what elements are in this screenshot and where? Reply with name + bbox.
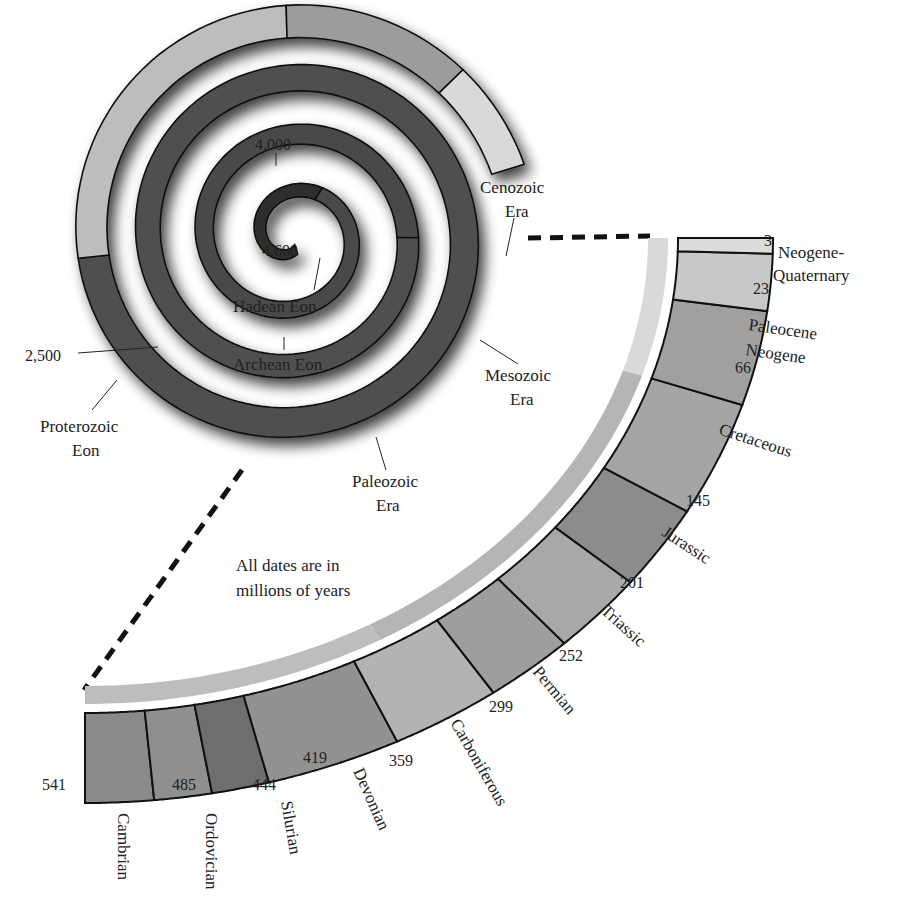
label-hadean-eon: Hadean Eon <box>233 297 317 316</box>
connector-bottom-dashed <box>84 470 242 690</box>
leader-proterozoic <box>92 380 117 410</box>
boundary-label-299: 299 <box>489 698 513 715</box>
boundary-label-66: 66 <box>735 359 751 376</box>
period-label-jurassic: Jurassic <box>659 522 715 567</box>
boundary-label-252: 252 <box>559 647 583 664</box>
period-label-carboniferous: Carboniferous <box>447 716 512 810</box>
label-4600: 4,600 <box>262 242 298 259</box>
label-cenozoic-2: Era <box>505 202 529 221</box>
period-segment-cambrian <box>85 711 154 803</box>
geologic-time-spiral-diagram: 4,000 4,600 Hadean Eon Archean Eon 2,500… <box>0 0 898 900</box>
leader-cenozoic <box>506 218 514 256</box>
label-mesozoic-1: Mesozoic <box>485 366 552 385</box>
period-label-neogene-quaternary-2: Quaternary <box>773 266 850 285</box>
label-proterozoic-2: Eon <box>72 441 100 460</box>
boundary-label-359: 359 <box>389 752 413 769</box>
label-proterozoic-1: Proterozoic <box>40 417 119 436</box>
label-mesozoic-2: Era <box>510 390 534 409</box>
boundary-label-419: 419 <box>303 749 327 766</box>
note-line-2: millions of years <box>236 581 350 600</box>
period-label-cretaceous: Cretaceous <box>717 420 795 461</box>
boundary-label-541: 541 <box>42 776 66 793</box>
boundary-label-485: 485 <box>172 776 196 793</box>
leader-hadean <box>314 258 320 290</box>
boundary-label-3: 3 <box>764 232 772 249</box>
note-line-1: All dates are in <box>236 556 340 575</box>
label-paleozoic-1: Paleozoic <box>352 472 419 491</box>
period-label-neogene-quaternary-1: Neogene- <box>778 243 844 262</box>
connector-top-dashed <box>528 236 650 238</box>
leader-mesozoic <box>480 340 518 364</box>
period-label-ordovician: Ordovician <box>202 813 221 890</box>
period-label-cambrian: Cambrian <box>114 813 133 881</box>
boundary-label-23: 23 <box>753 280 769 297</box>
period-label-silurian: Silurian <box>277 799 305 856</box>
period-label-permian: Permian <box>529 662 580 718</box>
boundary-label-145: 145 <box>686 492 710 509</box>
label-paleozoic-2: Era <box>376 496 400 515</box>
boundary-label-444: 444 <box>252 776 276 793</box>
boundary-label-201: 201 <box>620 574 644 591</box>
label-cenozoic-1: Cenozoic <box>480 178 545 197</box>
label-4000: 4,000 <box>255 136 291 153</box>
label-archean-eon: Archean Eon <box>233 355 323 374</box>
period-label-devonian: Devonian <box>349 765 393 834</box>
period-segment-recent <box>678 238 773 254</box>
leader-paleozoic <box>376 437 386 470</box>
period-label-triassic: Triassic <box>597 601 650 651</box>
label-2500: 2,500 <box>25 347 61 364</box>
